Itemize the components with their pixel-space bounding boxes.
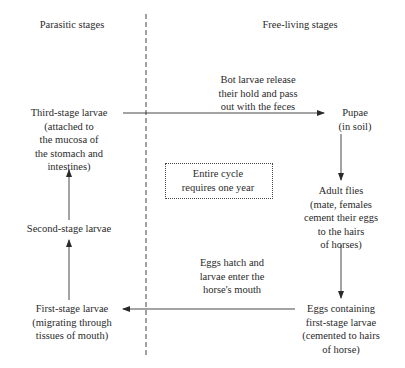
node-eggs: Eggs containing first-stage larvae (ceme… <box>302 302 380 356</box>
node-second-stage-larvae: Second-stage larvae <box>27 222 111 236</box>
note-entire-cycle: Entire cycle requires one year <box>182 167 254 194</box>
label-eggs-hatch: Eggs hatch and larvae enter the horse's … <box>200 256 265 297</box>
header-parasitic: Parasitic stages <box>40 18 104 32</box>
label-bot-larvae-release: Bot larvae release their hold and pass o… <box>218 73 297 114</box>
node-first-stage-larvae: First-stage larvae (migrating through ti… <box>32 302 112 343</box>
node-pupae: Pupae (in soil) <box>339 106 372 133</box>
header-free-living: Free-living stages <box>263 18 338 32</box>
node-third-stage-larvae: Third-stage larvae (attached to the muco… <box>31 106 108 174</box>
node-adult-flies: Adult flies (mate, females cement their … <box>304 184 378 252</box>
